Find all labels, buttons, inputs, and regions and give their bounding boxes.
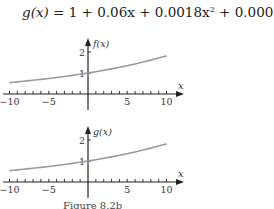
y-axis-label: g(x) bbox=[93, 126, 112, 137]
x-tick-label: −10 bbox=[0, 184, 20, 195]
y-axis-arrow-icon bbox=[85, 126, 91, 134]
y-tick-label: 2 bbox=[79, 47, 85, 58]
y-tick-label: 2 bbox=[79, 135, 85, 146]
plus-sign: + bbox=[82, 4, 93, 20]
formula-lhs: g(x) bbox=[22, 4, 49, 20]
exponent-2: 2 bbox=[210, 5, 215, 14]
chart-f: −10−551012xf(x) bbox=[0, 36, 274, 112]
y-axis-arrow-icon bbox=[85, 38, 91, 46]
x-tick-label: 5 bbox=[124, 184, 130, 195]
x-axis-label: x bbox=[178, 80, 184, 91]
x-axis-arrow-icon bbox=[176, 91, 184, 97]
x-tick-label: −5 bbox=[42, 184, 56, 195]
chart-svg: −10−551012xg(x) bbox=[0, 124, 274, 204]
x-axis-arrow-icon bbox=[176, 179, 184, 185]
y-axis-label: f(x) bbox=[92, 38, 110, 49]
plus-sign: + bbox=[139, 4, 150, 20]
chart-g: −10−551012xg(x) bbox=[0, 124, 274, 204]
figure-caption: Figure 8.2b bbox=[63, 200, 122, 209]
formula: g(x) = 1 + 0.06x + 0.0018x2 + 0.000036x3 bbox=[22, 4, 274, 20]
chart-svg: −10−551012xf(x) bbox=[0, 36, 274, 112]
x-tick-label: −5 bbox=[42, 96, 56, 107]
plus-sign: + bbox=[219, 4, 230, 20]
formula-term-2: 0.0018x bbox=[155, 4, 210, 20]
x-tick-label: 10 bbox=[160, 96, 172, 107]
x-axis-label: x bbox=[178, 168, 184, 179]
x-tick-label: −10 bbox=[0, 96, 20, 107]
formula-term-3: 0.000036x bbox=[235, 4, 274, 20]
formula-term-1: 0.06x bbox=[97, 4, 135, 20]
formula-term-0: 1 bbox=[69, 4, 78, 20]
x-tick-label: 10 bbox=[160, 184, 172, 195]
equals-sign: = bbox=[53, 4, 69, 20]
x-tick-label: 5 bbox=[124, 96, 130, 107]
